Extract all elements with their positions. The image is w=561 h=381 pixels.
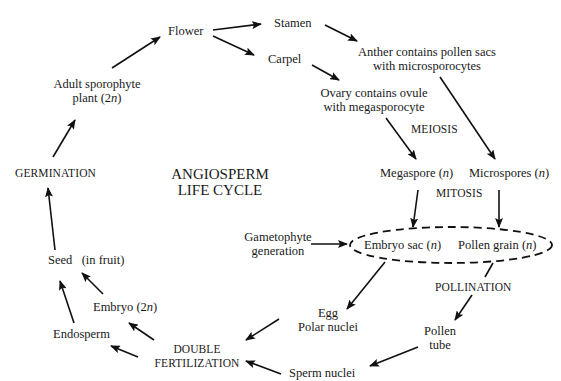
meiosis-label: MEIOSIS: [411, 122, 458, 136]
embryo-text: Embryo (2: [93, 300, 147, 314]
arrow-fertilization-to-embryo: [129, 323, 154, 340]
arrow-germination-to-adult: [53, 120, 75, 157]
double-fertilization-label: DOUBLE FERTILIZATION: [146, 342, 248, 370]
seed-label: Seed (in fruit): [48, 253, 124, 267]
carpel-label: Carpel: [268, 52, 301, 66]
arrow-pollen-grain-to-pollination: [485, 263, 493, 277]
flower-label: Flower: [168, 24, 203, 38]
megaspore-text: Megaspore (: [380, 166, 443, 180]
stamen-label: Stamen: [274, 16, 312, 30]
arrow-adult-to-flower: [112, 37, 160, 68]
arrow-megaspore-to-embryo-sac: [413, 190, 418, 227]
paren: ): [437, 238, 441, 252]
arrow-embryo-sac-to-egg: [347, 262, 385, 309]
arrow-embryo-to-seed: [82, 273, 103, 294]
embryo-label: Embryo (2n): [93, 300, 157, 314]
double-line2: FERTILIZATION: [146, 356, 248, 370]
title-line1: ANGIOSPERM: [170, 166, 270, 182]
paren: ): [449, 166, 453, 180]
arrow-pollen-tube-to-sperm: [370, 347, 418, 366]
ovary-line1: Ovary contains ovule: [300, 86, 448, 100]
germination-label: GERMINATION: [15, 166, 96, 180]
adult-line2-text: plant (2: [73, 91, 112, 105]
embryo-sac-text: Embryo sac (: [364, 238, 431, 252]
arrow-pollination-to-pollen-tube: [455, 295, 472, 320]
anther-line1: Anther contains pollen sacs: [333, 45, 521, 59]
arrow-anther-to-microspores: [440, 77, 495, 159]
paren: ): [532, 238, 536, 252]
mitosis-label: MITOSIS: [436, 186, 483, 200]
paren: ): [117, 91, 121, 105]
arrow-sperm-to-fertilization: [246, 361, 281, 374]
diagram-title: ANGIOSPERM LIFE CYCLE: [170, 166, 270, 198]
adult-sporophyte-label: Adult sporophyte plant (2n): [46, 77, 148, 105]
paren: ): [545, 166, 549, 180]
double-line1: DOUBLE: [146, 342, 248, 356]
megaspore-label: Megaspore (n): [380, 166, 453, 180]
gametophyte-line1: Gametophyte: [240, 230, 316, 244]
arrow-endosperm-to-seed: [60, 281, 74, 323]
anther-line2: with microsporocytes: [333, 59, 521, 73]
ovary-line2: with megasporocyte: [300, 100, 448, 114]
adult-line2: plant (2n): [46, 91, 148, 105]
egg-polar-label: Egg Polar nuclei: [285, 306, 371, 334]
paren: ): [153, 300, 157, 314]
arrow-flower-to-stamen: [213, 24, 261, 30]
endosperm-label: Endosperm: [53, 327, 110, 341]
pollen-grain-text: Pollen grain (: [458, 238, 526, 252]
polar-nuclei-line: Polar nuclei: [285, 320, 371, 334]
arrow-flower-to-carpel: [213, 36, 254, 55]
pollen-tube-line1: Pollen: [420, 324, 460, 338]
embryo-sac-label: Embryo sac (n): [364, 238, 441, 252]
arrow-egg-to-fertilization: [246, 319, 279, 340]
arrow-seed-to-germination: [48, 188, 55, 250]
ovary-label: Ovary contains ovule with megasporocyte: [300, 86, 448, 114]
pollen-tube-line2: tube: [420, 338, 460, 352]
gametophyte-line2: generation: [240, 244, 316, 258]
sperm-nuclei-label: Sperm nuclei: [289, 366, 355, 380]
adult-line1: Adult sporophyte: [46, 77, 148, 91]
microspores-text: Microspores (: [469, 166, 539, 180]
pollen-grain-label: Pollen grain (n): [458, 238, 536, 252]
anther-label: Anther contains pollen sacs with microsp…: [333, 45, 521, 73]
arrow-stamen-to-anther: [325, 25, 357, 41]
pollen-tube-label: Pollen tube: [420, 324, 460, 352]
arrow-fertilization-to-endosperm: [111, 346, 138, 357]
egg-line: Egg: [285, 306, 371, 320]
title-line2: LIFE CYCLE: [170, 182, 270, 198]
gametophyte-label: Gametophyte generation: [240, 230, 316, 258]
microspores-label: Microspores (n): [469, 166, 549, 180]
pollination-label: POLLINATION: [435, 280, 511, 294]
